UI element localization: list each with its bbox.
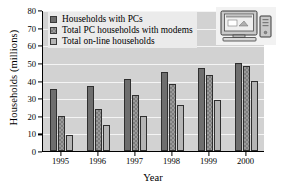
y-tick-label: 20 (27, 112, 36, 122)
bar (50, 89, 57, 151)
bar (169, 84, 176, 151)
bar-group (124, 79, 147, 151)
desktop-computer-icon (216, 7, 276, 45)
legend-item: Total on-line households (50, 36, 193, 46)
legend-swatch (50, 38, 57, 45)
bar-group (235, 63, 258, 151)
bar (66, 135, 73, 151)
y-tick-label: 50 (27, 59, 36, 69)
y-tick-label: 80 (27, 6, 36, 16)
y-tick-label: 30 (27, 94, 36, 104)
bar-group (198, 68, 221, 151)
bar (198, 68, 205, 151)
bar (177, 105, 184, 151)
y-tick-label: 0 (32, 147, 36, 157)
bar-group (87, 86, 110, 151)
x-tick-label: 1997 (126, 156, 143, 166)
legend-swatch (50, 27, 57, 34)
bar-chart: Households (millions) 01020304050607080 … (0, 0, 282, 191)
bar (206, 75, 213, 151)
x-axis-title: Year (42, 172, 264, 183)
y-axis-ticks: 01020304050607080 (0, 11, 42, 152)
bar (161, 72, 168, 151)
legend-swatch (50, 16, 57, 23)
bar (243, 66, 250, 151)
y-tick-label: 70 (27, 24, 36, 34)
x-axis-ticks: 199519961997199819992000 (42, 152, 264, 170)
y-tick-label: 60 (27, 41, 36, 51)
bar-group (161, 72, 184, 151)
bar (132, 95, 139, 151)
legend-label: Total on-line households (62, 36, 155, 46)
bar (87, 86, 94, 151)
legend: Households with PCsTotal PC households w… (48, 12, 197, 48)
x-tick-label: 1995 (52, 156, 69, 166)
x-tick-label: 1996 (89, 156, 106, 166)
bar-group (50, 89, 73, 151)
bar (251, 81, 258, 152)
x-tick-label: 1999 (200, 156, 217, 166)
legend-item: Households with PCs (50, 14, 193, 24)
bar (103, 125, 110, 151)
bar (124, 79, 131, 151)
bar (58, 116, 65, 151)
bar (140, 116, 147, 151)
desktop-computer-glyph (220, 10, 272, 42)
bar (235, 63, 242, 151)
legend-label: Total PC households with modems (62, 25, 193, 35)
bar (214, 100, 221, 151)
legend-label: Households with PCs (62, 14, 143, 24)
y-tick-label: 10 (27, 129, 36, 139)
bar (95, 109, 102, 151)
legend-item: Total PC households with modems (50, 25, 193, 35)
y-tick-label: 40 (27, 77, 36, 87)
x-tick-label: 2000 (237, 156, 254, 166)
x-tick-label: 1998 (163, 156, 180, 166)
